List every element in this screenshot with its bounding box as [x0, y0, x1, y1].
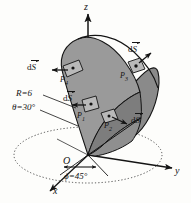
point-label-3: P3	[120, 72, 128, 82]
leader-line-theta	[40, 110, 78, 126]
ds-label-2: dS	[131, 116, 140, 125]
ds-label-1: dS	[63, 94, 72, 103]
ds-label-1-vector: S	[68, 94, 73, 103]
radius-label: R=6	[16, 89, 32, 98]
point-label-1-index: 1	[82, 116, 85, 122]
ds-label-3: dS	[128, 45, 137, 54]
origin-label: O	[63, 156, 70, 166]
ds-label-3-vector: S	[133, 45, 138, 54]
point-label-3-index: 3	[125, 76, 128, 82]
point-label-4-index: 4	[65, 80, 68, 86]
y-axis	[88, 155, 172, 168]
azimuth-angle-label: ϕ=45°	[64, 172, 87, 181]
vector-calculus-diagram: z y x O R=6 θ=30° ϕ=45° dS dS dS dS P4 P…	[0, 0, 191, 203]
point-label-2-index: 2	[109, 126, 112, 132]
x-axis-label: x	[53, 186, 57, 196]
ds-label-2-vector: S	[136, 116, 141, 125]
polar-angle-label: θ=30°	[12, 103, 35, 112]
point-label-2: P2	[104, 122, 112, 132]
point-label-1: P1	[77, 112, 85, 122]
ds-label-4: dS	[27, 63, 36, 72]
ds-label-4-vector: S	[32, 63, 37, 72]
z-axis-label: z	[84, 2, 88, 12]
point-label-4: P4	[60, 76, 68, 86]
y-axis-label: y	[175, 166, 179, 176]
